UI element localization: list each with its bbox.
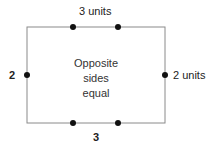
center-text-line-3: equal	[66, 86, 126, 101]
center-text-line-1: Opposite	[66, 56, 126, 71]
bottom-side-label: 3	[93, 131, 99, 143]
bottom-tick-dot-left	[70, 120, 76, 126]
center-text-line-2: sides	[66, 71, 126, 86]
top-tick-dot-left	[70, 24, 76, 30]
bottom-tick-dot-right	[115, 120, 121, 126]
right-tick-dot	[162, 72, 168, 78]
top-side-label: 3 units	[79, 5, 111, 17]
top-tick-dot-right	[115, 24, 121, 30]
left-tick-dot	[24, 72, 30, 78]
center-annotation: Opposite sides equal	[66, 56, 126, 101]
left-side-label: 2	[9, 69, 15, 81]
right-side-label: 2 units	[173, 69, 205, 81]
